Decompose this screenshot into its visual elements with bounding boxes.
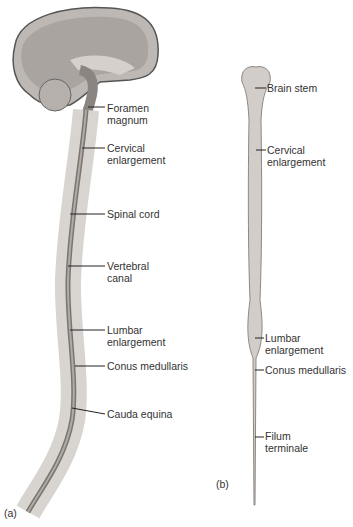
panel-tag-b: (b) (216, 478, 229, 490)
label-cauda-equina: Cauda equina (107, 409, 172, 421)
brain-sagittal (13, 7, 158, 115)
vertebral-column (28, 110, 86, 512)
label-lumbar-enlargement-b: Lumbar enlargement (265, 333, 323, 356)
label-conus-medullaris-b: Conus medullaris (265, 365, 346, 377)
label-foramen-magnum: Foramen magnum (107, 103, 149, 126)
label-filum-terminale: Filum terminale (265, 431, 308, 454)
label-cervical-enlargement-b: Cervical enlargement (267, 145, 325, 168)
label-lumbar-enlargement-a: Lumbar enlargement (107, 325, 165, 348)
label-spinal-cord: Spinal cord (107, 209, 160, 221)
label-conus-medullaris-a: Conus medullaris (107, 361, 188, 373)
label-cervical-enlargement-a: Cervical enlargement (107, 143, 165, 166)
label-brain-stem: Brain stem (267, 83, 317, 95)
panel-tag-a: (a) (4, 507, 17, 519)
label-vertebral-canal: Vertebral canal (107, 261, 149, 284)
